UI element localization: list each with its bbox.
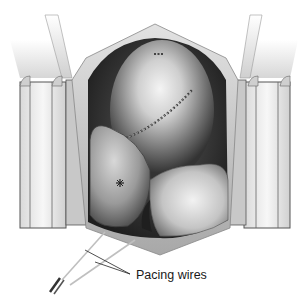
right-ventricle — [150, 164, 228, 236]
pacing-wires-label: Pacing wires — [136, 268, 207, 282]
star-suture — [116, 179, 124, 187]
surgical-illustration: Pacing wires — [0, 0, 308, 305]
illustration-canvas — [0, 0, 308, 305]
right-retractor — [228, 15, 298, 228]
left-retractor — [10, 15, 86, 228]
